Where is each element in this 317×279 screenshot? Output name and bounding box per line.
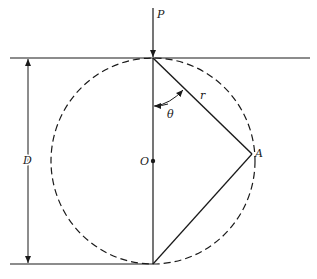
load-label: P (156, 8, 165, 21)
diameter-label: D (22, 154, 32, 167)
radius-label: r (200, 89, 206, 102)
diagram-canvas: P r θ O A D (0, 0, 317, 279)
chord-r-line (153, 58, 252, 154)
angle-theta-arc (155, 90, 183, 106)
center-label: O (140, 155, 149, 168)
point-a-label: A (254, 147, 263, 160)
chord-bottom-line (153, 154, 252, 264)
center-point (151, 159, 155, 163)
angle-label: θ (167, 108, 174, 121)
